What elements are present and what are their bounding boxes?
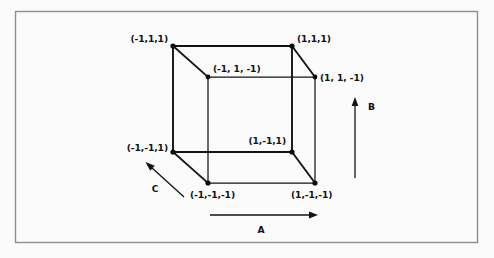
axis-arrows [146,97,359,218]
vertex-dot [313,75,318,80]
axis-label-c: C [152,183,159,194]
figure-canvas: (-1,1,1) (1,1,1) (-1, 1, -1) (1, 1, -1) … [0,0,494,258]
vertex-label-front-top-right: (1,1,1) [297,33,331,44]
vertex-dot [170,149,175,154]
vertex-dot [206,75,211,80]
vertex-labels: (-1,1,1) (1,1,1) (-1, 1, -1) (1, 1, -1) … [127,33,364,200]
vertex-label-back-top-left: (-1, 1, -1) [213,63,260,74]
vertex-label-front-bottom-right: (1,-1,1) [248,135,286,146]
arrow-head-right-icon [309,212,318,219]
vertex-dot [312,180,317,185]
vertex-label-back-bottom-left: (-1,-1,-1) [190,189,235,200]
vertex-label-back-bottom-right: (1,-1,-1) [291,189,332,200]
vertex-dot [289,149,294,154]
vertex-dot [289,43,294,48]
cube-back-face [208,77,315,183]
axis-a-arrow [210,212,318,219]
axis-label-b: B [368,101,375,112]
cube-diagram: (-1,1,1) (1,1,1) (-1, 1, -1) (1, 1, -1) … [0,0,494,258]
axis-label-a: A [257,224,265,235]
vertex-dot [170,43,175,48]
vertex-label-back-top-right: (1, 1, -1) [320,72,364,83]
axis-b-arrow [352,97,359,178]
vertex-label-front-bottom-left: (-1,-1,1) [127,142,168,153]
vertex-label-front-top-left: (-1,1,1) [130,33,168,44]
vertex-dot [205,180,210,185]
arrow-head-up-icon [352,97,359,106]
